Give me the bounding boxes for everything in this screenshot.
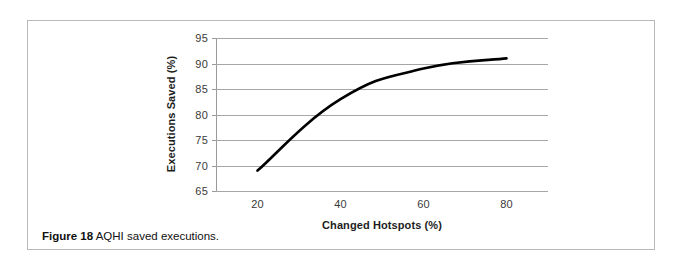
figure-frame: 65707580859095 20406080 Executions Saved… — [27, 20, 655, 250]
chart-figure: 65707580859095 20406080 Executions Saved… — [189, 31, 549, 206]
y-tick-label-75: 75 — [195, 134, 208, 146]
x-tick-label-60: 60 — [417, 198, 430, 210]
figure-caption-text: AQHI saved executions. — [96, 230, 219, 242]
y-tick-label-90: 90 — [195, 58, 208, 70]
gridline-y-65 — [216, 191, 548, 192]
figure-caption: Figure 18 AQHI saved executions. — [42, 230, 219, 242]
x-axis-title: Changed Hotspots (%) — [216, 219, 548, 231]
x-tick-label-80: 80 — [500, 198, 513, 210]
y-tick-label-80: 80 — [195, 109, 208, 121]
y-tick-label-70: 70 — [195, 160, 208, 172]
y-tick-label-85: 85 — [195, 83, 208, 95]
y-tick-label-65: 65 — [195, 185, 208, 197]
plot-area: 65707580859095 20406080 — [216, 38, 548, 191]
series-line-aqhi — [258, 58, 507, 170]
figure-caption-label: Figure 18 — [42, 230, 93, 242]
series-line-chart — [216, 38, 548, 191]
y-tick-label-95: 95 — [195, 32, 208, 44]
y-tick-mark-65 — [212, 191, 216, 192]
x-tick-label-20: 20 — [251, 198, 264, 210]
y-axis-title: Executions Saved (%) — [165, 56, 177, 172]
x-tick-label-40: 40 — [334, 198, 347, 210]
